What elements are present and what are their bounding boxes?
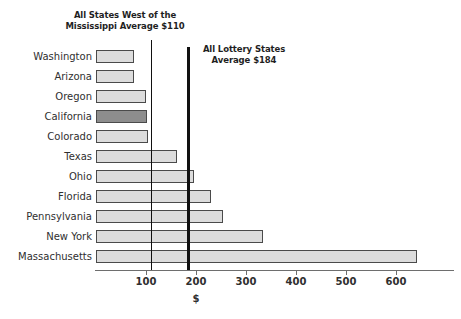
bar-california (96, 110, 147, 123)
category-label-colorado: Colorado (4, 128, 96, 145)
category-label-new-york: New York (4, 228, 96, 245)
x-tick-200 (196, 271, 197, 275)
category-label-arizona: Arizona (4, 68, 96, 85)
x-tick-300 (246, 271, 247, 275)
x-tick-label-400: 400 (279, 276, 313, 287)
plot-area: WashingtonArizonaOregonCaliforniaColorad… (0, 0, 461, 319)
reference-line-lottery-average (187, 47, 190, 270)
category-label-ohio: Ohio (4, 168, 96, 185)
x-tick-label-200: 200 (179, 276, 213, 287)
x-tick-100 (146, 271, 147, 275)
chart-row: New York (0, 228, 461, 245)
category-label-florida: Florida (4, 188, 96, 205)
x-tick-500 (346, 271, 347, 275)
bar-pennsylvania (96, 210, 223, 223)
bar-massachusetts (96, 250, 417, 263)
chart-row: Arizona (0, 68, 461, 85)
bar-colorado (96, 130, 148, 143)
chart-row: Massachusetts (0, 248, 461, 265)
bar-washington (96, 50, 134, 63)
bar-oregon (96, 90, 146, 103)
x-axis-line (95, 270, 454, 271)
chart-row: California (0, 108, 461, 125)
category-label-oregon: Oregon (4, 88, 96, 105)
bar-florida (96, 190, 211, 203)
x-tick-label-600: 600 (379, 276, 413, 287)
category-label-texas: Texas (4, 148, 96, 165)
bar-texas (96, 150, 177, 163)
bar-ohio (96, 170, 194, 183)
x-tick-400 (296, 271, 297, 275)
category-label-pennsylvania: Pennsylvania (4, 208, 96, 225)
x-axis-title: $ (176, 293, 216, 304)
x-tick-label-100: 100 (129, 276, 163, 287)
chart-row: Colorado (0, 128, 461, 145)
bar-arizona (96, 70, 134, 83)
chart-row: Oregon (0, 88, 461, 105)
chart-row: Ohio (0, 168, 461, 185)
category-label-california: California (4, 108, 96, 125)
bar-chart: All States West of the Mississippi Avera… (0, 0, 461, 319)
chart-row: Washington (0, 48, 461, 65)
bar-new-york (96, 230, 263, 243)
reference-line-west-average (151, 40, 153, 270)
category-label-washington: Washington (4, 48, 96, 65)
x-tick-label-500: 500 (329, 276, 363, 287)
chart-row: Florida (0, 188, 461, 205)
x-tick-600 (396, 271, 397, 275)
x-tick-label-300: 300 (229, 276, 263, 287)
chart-row: Texas (0, 148, 461, 165)
category-label-massachusetts: Massachusetts (4, 248, 96, 265)
chart-row: Pennsylvania (0, 208, 461, 225)
